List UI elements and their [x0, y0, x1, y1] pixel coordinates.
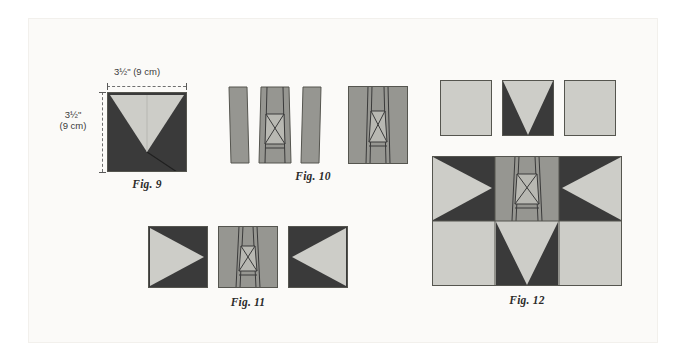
height-dimension-cap-bottom — [99, 172, 106, 173]
fig10-strip-left-svg — [228, 86, 250, 164]
fig9-patch-square — [107, 92, 187, 172]
fig12-block-svg — [432, 156, 622, 286]
fig10-caption: Fig. 10 — [273, 170, 353, 182]
fig10-hourglass-unit — [258, 86, 292, 164]
fig12-top-center-svg — [502, 80, 554, 136]
width-dimension-label: 3½" (9 cm) — [82, 66, 192, 77]
fig12-top-right-svg — [564, 80, 616, 136]
height-dimension-line1: 3½" — [65, 109, 82, 120]
fig11-right-svg — [288, 226, 348, 288]
height-dimension-line — [102, 92, 103, 172]
fig11-center-square — [218, 226, 278, 288]
figure-11-group: Fig. 11 — [138, 216, 368, 336]
height-dimension-line2: (9 cm) — [60, 120, 87, 131]
fig10-hourglass-svg — [258, 86, 292, 164]
fig12-caption: Fig. 12 — [487, 294, 567, 306]
width-dimension-cap-right — [186, 83, 187, 90]
diagram-panel: 3½" (9 cm) 3½" (9 cm) — [28, 18, 658, 343]
fig9-svg — [107, 92, 187, 172]
fig12-top-square-left — [440, 80, 492, 136]
fig12-top-square-right — [564, 80, 616, 136]
width-dimension-cap-left — [107, 83, 108, 90]
diagram-page: 3½" (9 cm) 3½" (9 cm) — [0, 0, 686, 361]
fig11-left-square — [148, 226, 208, 288]
fig12-top-square-center — [502, 80, 554, 136]
height-dimension-label: 3½" (9 cm) — [46, 109, 100, 131]
fig10-strip-right — [300, 86, 322, 164]
fig11-right-square — [288, 226, 348, 288]
fig11-caption: Fig. 11 — [208, 296, 288, 308]
fig9-caption: Fig. 9 — [107, 178, 187, 190]
fig11-left-svg — [148, 226, 208, 288]
fig10-assembled-svg — [348, 86, 408, 164]
width-dimension-line — [107, 86, 186, 87]
fig12-assembled-block — [432, 156, 622, 286]
figure-9-group: 3½" (9 cm) 3½" (9 cm) — [28, 18, 228, 208]
fig12-top-left-svg — [440, 80, 492, 136]
fig11-center-svg — [218, 226, 278, 288]
figure-12-group: Fig. 12 — [426, 66, 646, 331]
height-dimension-cap-top — [99, 92, 106, 93]
fig10-strip-left — [228, 86, 250, 164]
figure-10-group: Fig. 10 — [218, 18, 408, 208]
fig10-assembled-square — [348, 86, 408, 164]
fig10-strip-right-svg — [300, 86, 322, 164]
